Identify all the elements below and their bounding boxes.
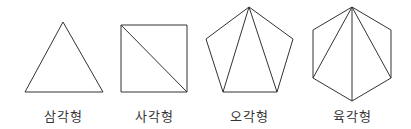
pentagon-outline	[206, 7, 293, 92]
hexagon-diagonal	[352, 7, 391, 78]
square-diagonal	[121, 25, 187, 92]
square-shape	[121, 25, 187, 92]
hexagon-label: 육각형	[333, 106, 372, 125]
triangle-label: 삼각형	[44, 106, 83, 125]
pentagon-label: 오각형	[230, 106, 269, 125]
triangle-outline	[25, 22, 103, 92]
hexagon-diagonal	[313, 7, 352, 78]
hexagon-shape	[313, 7, 391, 101]
pentagon-diagonal	[249, 7, 277, 92]
triangle-shape	[25, 22, 103, 92]
pentagon-diagonal	[223, 7, 249, 92]
square-label: 사각형	[135, 106, 174, 125]
pentagon-shape	[206, 7, 293, 92]
